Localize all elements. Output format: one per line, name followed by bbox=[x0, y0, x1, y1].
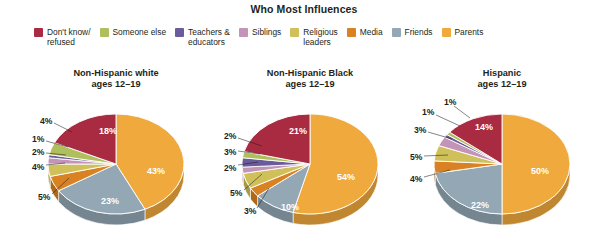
pie-chart-non-hispanic-black: Non-Hispanic Black ages 12–19 54%10%21%2… bbox=[212, 68, 408, 242]
slice-value-label: 18% bbox=[99, 126, 117, 136]
legend-item-label: Don't know/ refused bbox=[47, 27, 91, 47]
legend-swatch-icon bbox=[34, 28, 43, 37]
pie-caption: Non-Hispanic white ages 12–19 bbox=[18, 68, 214, 90]
callout-value-label: 3% bbox=[244, 206, 257, 216]
legend-item[interactable]: Don't know/ refused bbox=[34, 27, 91, 47]
legend-item-label: Media bbox=[360, 27, 383, 37]
callout-leader-line bbox=[454, 106, 470, 118]
callout-value-label: 2% bbox=[224, 163, 237, 173]
legend-swatch-icon bbox=[100, 28, 109, 37]
callout-value-label: 2% bbox=[32, 147, 45, 157]
legend-item-label: Someone else bbox=[113, 27, 167, 37]
pie-chart-hispanic: Hispanic ages 12–19 50%22%14%1%1%3%5%4% bbox=[404, 68, 600, 242]
callout-value-label: 5% bbox=[38, 192, 51, 202]
legend-item[interactable]: Religious leaders bbox=[290, 27, 337, 47]
pie-chart-non-hispanic-white: Non-Hispanic white ages 12–19 43%23%18%4… bbox=[18, 68, 214, 242]
slice-value-label: 10% bbox=[281, 202, 299, 212]
callout-value-label: 5% bbox=[230, 188, 243, 198]
legend-swatch-icon bbox=[392, 28, 401, 37]
legend-item[interactable]: Teachers & educators bbox=[175, 27, 230, 47]
callout-value-label: 3% bbox=[224, 147, 237, 157]
page-title: Who Most Influences bbox=[0, 3, 608, 15]
slice-value-label: 43% bbox=[147, 166, 165, 176]
slice-value-label: 23% bbox=[101, 196, 119, 206]
legend-item-label: Religious leaders bbox=[303, 27, 337, 47]
pie-svg: 43%23%18%4%1%2%4%5% bbox=[18, 92, 214, 242]
legend-item[interactable]: Media bbox=[347, 27, 383, 37]
slice-value-label: 54% bbox=[337, 172, 355, 182]
legend-swatch-icon bbox=[239, 28, 248, 37]
slice-value-label: 50% bbox=[531, 166, 549, 176]
legend-item[interactable]: Siblings bbox=[239, 27, 281, 37]
chart-root: Who Most Influences Don't know/ refusedS… bbox=[0, 0, 608, 251]
callout-value-label: 1% bbox=[422, 107, 435, 117]
callout-value-label: 1% bbox=[32, 134, 45, 144]
legend-swatch-icon bbox=[290, 28, 299, 37]
legend-item-label: Friends bbox=[405, 27, 433, 37]
callout-value-label: 1% bbox=[444, 97, 457, 107]
slice-value-label: 22% bbox=[471, 200, 489, 210]
pie-slices bbox=[434, 114, 570, 214]
slice-value-label: 21% bbox=[289, 126, 307, 136]
legend: Don't know/ refusedSomeone elseTeachers … bbox=[34, 27, 582, 47]
pie-svg: 50%22%14%1%1%3%5%4% bbox=[404, 92, 600, 242]
callout-value-label: 5% bbox=[410, 152, 423, 162]
pie-svg-wrap: 50%22%14%1%1%3%5%4% bbox=[404, 92, 600, 242]
legend-item[interactable]: Someone else bbox=[100, 27, 167, 37]
legend-item-label: Parents bbox=[455, 27, 484, 37]
legend-swatch-icon bbox=[347, 28, 356, 37]
legend-item[interactable]: Friends bbox=[392, 27, 433, 37]
pie-svg-wrap: 54%10%21%2%3%2%5%3% bbox=[212, 92, 408, 242]
pie-svg: 54%10%21%2%3%2%5%3% bbox=[212, 92, 408, 242]
pie-caption: Non-Hispanic Black ages 12–19 bbox=[212, 68, 408, 90]
callout-value-label: 3% bbox=[414, 125, 427, 135]
callout-value-label: 4% bbox=[32, 162, 45, 172]
callout-value-label: 4% bbox=[410, 174, 423, 184]
legend-item-label: Teachers & educators bbox=[188, 27, 230, 47]
callout-value-label: 2% bbox=[224, 131, 237, 141]
callout-value-label: 4% bbox=[40, 116, 53, 126]
pie-svg-wrap: 43%23%18%4%1%2%4%5% bbox=[18, 92, 214, 242]
slice-value-label: 14% bbox=[475, 122, 493, 132]
legend-item[interactable]: Parents bbox=[442, 27, 484, 37]
callout-leader-line bbox=[436, 115, 460, 126]
legend-swatch-icon bbox=[175, 28, 184, 37]
legend-swatch-icon bbox=[442, 28, 451, 37]
legend-item-label: Siblings bbox=[252, 27, 281, 37]
pie-caption: Hispanic ages 12–19 bbox=[404, 68, 600, 90]
